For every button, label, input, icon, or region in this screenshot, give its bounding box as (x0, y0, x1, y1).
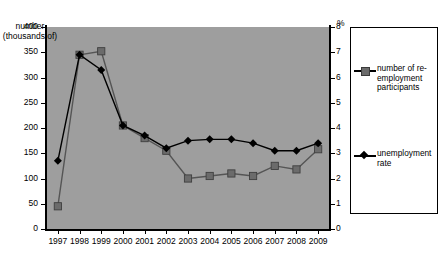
diamond-marker (184, 137, 192, 145)
series-line (58, 51, 318, 206)
square-marker (249, 172, 256, 179)
employment-chart: number (thousands of) % 0501001502002503… (0, 0, 439, 258)
legend-label: number of re-employment participants (377, 64, 437, 93)
series-line (58, 55, 318, 161)
square-marker (184, 175, 191, 182)
diamond-marker (54, 157, 62, 165)
legend-item-unemployment: unemployment rate (353, 149, 437, 168)
square-marker (293, 166, 300, 173)
square-marker (206, 172, 213, 179)
diamond-marker (206, 135, 214, 143)
square-marker (228, 170, 235, 177)
square-marker (271, 162, 278, 169)
legend-item-reemployment: number of re-employment participants (353, 64, 437, 93)
diamond-icon (353, 150, 377, 161)
diamond-marker (271, 147, 279, 155)
chart-legend: number of re-employment participants une… (350, 27, 438, 214)
legend-label: unemployment rate (377, 149, 437, 168)
diamond-marker (249, 139, 257, 147)
series-reemployment (54, 48, 322, 210)
diamond-marker (227, 135, 235, 143)
diamond-marker (292, 147, 300, 155)
square-icon (353, 65, 377, 76)
series-unemployment (54, 51, 322, 165)
square-marker (98, 48, 105, 55)
square-marker (54, 203, 61, 210)
